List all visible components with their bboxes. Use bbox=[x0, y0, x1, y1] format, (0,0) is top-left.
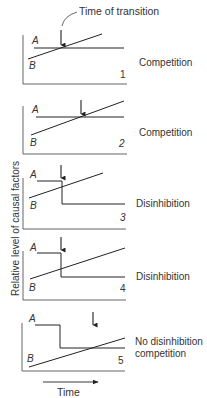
panel-5 bbox=[22, 312, 125, 371]
series-a-label: A bbox=[30, 169, 37, 180]
panel-number: 4 bbox=[120, 283, 126, 294]
series-a-label: A bbox=[32, 35, 39, 46]
panel-number: 1 bbox=[120, 69, 126, 80]
line-b bbox=[28, 34, 102, 59]
series-b-label: B bbox=[29, 282, 36, 293]
panel-outcome-label: Competition bbox=[139, 57, 192, 68]
time-of-transition-label: Time of transition bbox=[79, 6, 159, 17]
series-b-label: B bbox=[30, 200, 37, 211]
series-a-label: A bbox=[29, 313, 36, 324]
panel-number: 3 bbox=[120, 212, 126, 223]
series-b-label: B bbox=[30, 137, 37, 148]
leader-curve bbox=[62, 12, 77, 26]
series-a-label: A bbox=[30, 242, 37, 253]
line-a bbox=[37, 253, 125, 277]
panel-3 bbox=[23, 165, 126, 229]
series-b-label: B bbox=[27, 353, 34, 364]
series-b-label: B bbox=[29, 60, 36, 71]
panel-outcome-label: Competition bbox=[139, 127, 192, 138]
panel-number: 2 bbox=[119, 138, 125, 149]
panel-outcome-label-line1: No disinhibition bbox=[135, 336, 203, 347]
line-a bbox=[35, 325, 125, 348]
line-b bbox=[31, 101, 124, 135]
line-a bbox=[37, 181, 125, 204]
line-b bbox=[29, 173, 103, 198]
y-axis-label: Relative level of causal factors bbox=[10, 161, 21, 296]
x-axis-label: Time bbox=[57, 387, 80, 398]
panel-outcome-label: Disinhibition bbox=[136, 198, 190, 209]
panel-number: 5 bbox=[118, 355, 124, 366]
panel-outcome-label-line2: competition bbox=[135, 348, 186, 359]
axes bbox=[23, 251, 126, 300]
line-b bbox=[29, 338, 125, 367]
axes bbox=[22, 323, 125, 371]
panel-outcome-label: Disinhibition bbox=[136, 271, 190, 282]
series-a-label: A bbox=[32, 104, 39, 115]
panel-4 bbox=[23, 237, 126, 300]
